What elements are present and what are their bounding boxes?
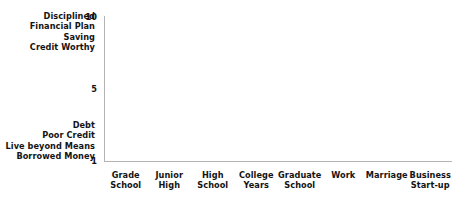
y-axis-tick-label: 5	[79, 85, 97, 94]
x-axis-label-row: Grade School Junior High High School Col…	[104, 170, 452, 200]
x-axis-category-label: College Years	[235, 170, 279, 200]
financial-literacy-chart: Disciplined Financial Plan Saving Credit…	[0, 0, 460, 206]
x-label-line: College	[235, 170, 279, 180]
plot-area	[105, 16, 452, 161]
x-label-line: Work	[322, 170, 366, 180]
x-axis-category-label: Grade School	[104, 170, 148, 200]
x-label-line: Marriage	[365, 170, 409, 180]
annotation-negative-traits: Debt Poor Credit Live beyond Means Borro…	[0, 120, 95, 162]
x-label-line: High	[191, 170, 235, 180]
x-axis-category-label: Junior High	[148, 170, 192, 200]
x-axis-category-label: Business Start-up	[409, 170, 453, 200]
x-axis-category-label: Graduate School	[278, 170, 322, 200]
x-axis-category-label: Marriage	[365, 170, 409, 200]
x-label-line: Junior	[148, 170, 192, 180]
annotation-line: Financial Plan	[0, 21, 95, 31]
x-label-line: Grade	[104, 170, 148, 180]
x-label-line: Years	[235, 180, 279, 190]
annotation-line: Credit Worthy	[0, 42, 95, 52]
x-axis-category-label: High School	[191, 170, 235, 200]
x-label-line: School	[104, 180, 148, 190]
x-label-line: Business	[409, 170, 453, 180]
x-label-line: Graduate	[278, 170, 322, 180]
x-axis-line	[104, 161, 452, 162]
x-axis-category-label: Work	[322, 170, 366, 200]
x-label-line: High	[148, 180, 192, 190]
x-label-line: School	[278, 180, 322, 190]
x-label-line: Start-up	[409, 180, 453, 190]
annotation-line: Live beyond Means	[0, 141, 95, 151]
x-label-line: School	[191, 180, 235, 190]
y-axis-tick-label: 10	[79, 13, 97, 22]
annotation-line: Poor Credit	[0, 130, 95, 140]
annotation-line: Debt	[0, 120, 95, 130]
y-axis-tick-label: 1	[79, 157, 97, 166]
annotation-line: Saving	[0, 32, 95, 42]
